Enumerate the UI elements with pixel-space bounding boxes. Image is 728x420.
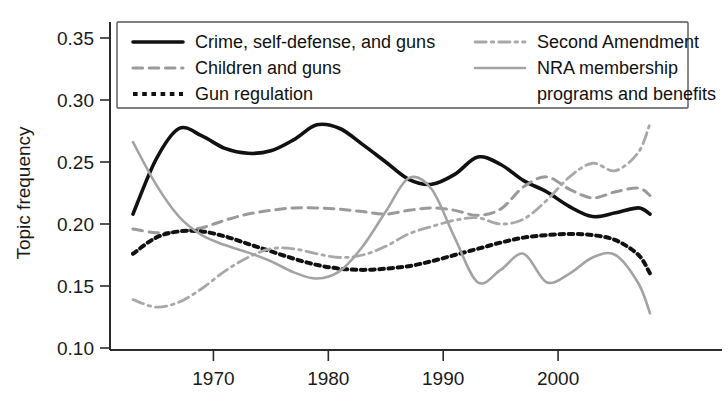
x-tick-label: 2000 [537,368,579,389]
legend-label: Second Amendment [537,32,699,52]
series-line [133,124,650,308]
series-line [133,177,650,233]
chart-container: 0.100.150.200.250.300.35 197019801990200… [0,0,728,420]
y-tick-label: 0.35 [57,28,94,49]
x-tick-label: 1980 [307,368,349,389]
chart-canvas: 0.100.150.200.250.300.35 197019801990200… [0,0,728,420]
y-tick-label: 0.10 [57,338,94,359]
y-tick-label: 0.20 [57,214,94,235]
y-tick-label: 0.15 [57,276,94,297]
legend-label: Crime, self-defense, and guns [195,32,435,52]
y-tick-label: 0.25 [57,152,94,173]
x-tick-label: 1990 [422,368,464,389]
y-tick-label: 0.30 [57,90,94,111]
legend-label: Gun regulation [195,84,313,104]
y-axis-title: Topic frequency [13,126,34,260]
x-tick-label: 1970 [192,368,234,389]
legend-label: NRA membership [537,58,678,78]
x-axis-group: 1970198019902000 [110,350,722,389]
legend-label: programs and benefits [537,84,716,104]
legend: Crime, self-defense, and gunsChildren an… [117,22,716,108]
y-axis-group: 0.100.150.200.250.300.35 [57,22,110,359]
legend-label: Children and guns [195,58,341,78]
series-line [133,231,650,274]
plot-series-group [133,124,650,314]
